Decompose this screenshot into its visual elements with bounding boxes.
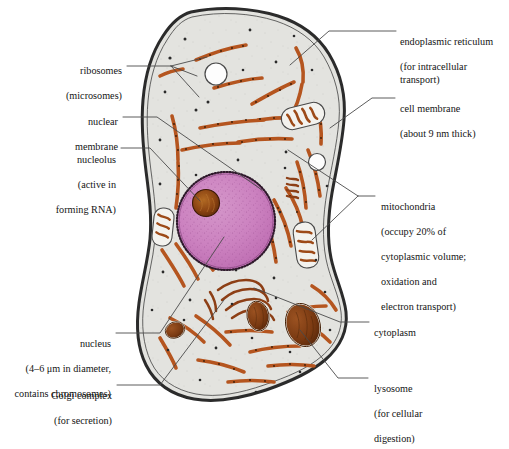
label-lysosome-line2: (for cellular bbox=[374, 408, 422, 420]
label-endoplasmic-reticulum-line2: (for intracellular transport) bbox=[400, 61, 509, 86]
label-mitochondria-line5: electron transport) bbox=[381, 301, 466, 313]
label-lysosome-line3: digestion) bbox=[374, 433, 422, 445]
vacuole bbox=[309, 154, 326, 171]
label-mitochondria-line4: oxidation and bbox=[381, 276, 466, 288]
label-golgi-complex-line2: (for secretion) bbox=[0, 415, 112, 427]
label-mitochondria-line1: mitochondria bbox=[381, 201, 466, 213]
label-mitochondria-line2: (occupy 20% of bbox=[381, 226, 466, 238]
label-lysosome: lysosome (for cellular digestion) bbox=[374, 371, 422, 449]
nucleolus bbox=[193, 190, 220, 217]
label-endoplasmic-reticulum-line1: endoplasmic reticulum bbox=[400, 36, 509, 48]
label-cell-membrane-line1: cell membrane bbox=[400, 103, 476, 115]
label-cell-membrane: cell membrane (about 9 nm thick) bbox=[400, 91, 476, 153]
label-endoplasmic-reticulum: endoplasmic reticulum (for intracellular… bbox=[400, 24, 509, 98]
label-golgi-complex: Golgi complex (for secretion) bbox=[0, 378, 112, 440]
label-nucleus-line1: nucleus bbox=[0, 338, 111, 350]
nucleus bbox=[177, 172, 275, 270]
label-cytoplasm-line1: cytoplasm bbox=[374, 327, 416, 339]
label-lysosome-line1: lysosome bbox=[374, 383, 422, 395]
label-nuclear-membrane-line1: nuclear bbox=[0, 116, 118, 128]
label-cell-membrane-line2: (about 9 nm thick) bbox=[400, 128, 476, 140]
label-nucleolus: nucleolus (active in forming RNA) bbox=[0, 142, 116, 229]
label-ribosomes-line1: ribosomes bbox=[0, 65, 122, 77]
label-mitochondria-line3: cytoplasmic volume; bbox=[381, 251, 466, 263]
label-mitochondria: mitochondria (occupy 20% of cytoplasmic … bbox=[381, 189, 466, 325]
label-nucleolus-line1: nucleolus bbox=[0, 154, 116, 166]
cell-body bbox=[137, 9, 346, 401]
label-golgi-complex-line1: Golgi complex bbox=[0, 390, 112, 402]
label-nucleus-line2: (4–6 μm in diameter, bbox=[0, 363, 111, 375]
label-nucleolus-line2: (active in bbox=[0, 179, 116, 191]
label-nucleolus-line3: forming RNA) bbox=[0, 204, 116, 216]
mitochondrion bbox=[151, 207, 175, 247]
vacuole bbox=[205, 63, 227, 85]
label-cytoplasm: cytoplasm bbox=[374, 315, 416, 352]
label-ribosomes-line2: (microsomes) bbox=[0, 90, 122, 102]
